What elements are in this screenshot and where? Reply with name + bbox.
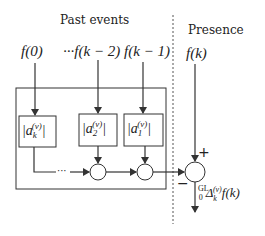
- input-fk: f(k): [186, 46, 207, 61]
- summer-node-2: [90, 164, 106, 180]
- input-f0: f(0): [21, 44, 43, 59]
- plus-sign: +: [198, 145, 210, 159]
- ellipsis: ···: [57, 166, 67, 176]
- input-fk2: ···f(k − 2): [63, 44, 120, 59]
- diagram-canvas: Past events Presence f(0) ···f(k − 2) f(…: [0, 0, 265, 236]
- minus-sign: −: [177, 176, 189, 190]
- coef-a1: |a1(v)|: [127, 120, 151, 138]
- presence-label: Presence: [188, 24, 244, 36]
- input-fk1: f(k − 1): [124, 44, 170, 59]
- path-ak: [34, 147, 56, 172]
- coef-ak: |ak(v)|: [22, 122, 46, 140]
- coef-a2: |a2(v)|: [82, 120, 106, 138]
- summer-node-1: [137, 164, 153, 180]
- output-label: GL0Δk(v)f(k): [198, 186, 240, 203]
- past-events-label: Past events: [60, 14, 129, 26]
